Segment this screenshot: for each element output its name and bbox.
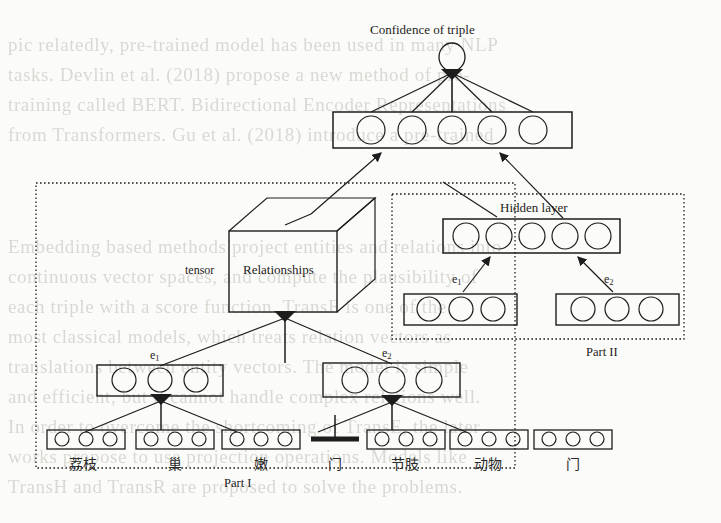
part-ii-caption: Part II — [586, 345, 618, 360]
unit-circle — [184, 368, 208, 392]
unit-circle — [552, 223, 578, 249]
unit-circle — [486, 223, 512, 249]
token-label: 嫩 — [254, 453, 268, 473]
unit-circle — [379, 367, 405, 393]
unit-circle — [458, 432, 472, 446]
e2-input-line — [392, 402, 466, 432]
e2-input-line — [318, 402, 392, 432]
hidden-layer-leader-line — [443, 182, 497, 217]
part-i-e1-label: e1 — [150, 348, 160, 363]
unit-circle — [506, 432, 520, 446]
confidence-output-layer — [333, 112, 572, 148]
weight-line — [452, 73, 492, 112]
unit-circle — [605, 297, 629, 321]
model-architecture-diagram — [0, 0, 721, 523]
part-ii-e1-arrow — [463, 257, 490, 292]
e2-subscript: 2 — [609, 277, 613, 287]
relationships-cube-label: Relationships — [243, 262, 314, 278]
tensor-cube-side-face — [337, 198, 375, 312]
unit-circle — [55, 432, 69, 446]
unit-circle — [590, 432, 604, 446]
unit-circle — [375, 432, 389, 446]
part-i-e2-label: e2 — [382, 346, 392, 361]
unit-circle — [103, 432, 117, 446]
unit-circle — [482, 432, 496, 446]
unit-circle — [481, 297, 505, 321]
unit-circle — [278, 432, 292, 446]
unit-circle — [438, 116, 466, 144]
token-label: 节肢 — [391, 453, 419, 473]
unit-circle — [519, 223, 545, 249]
weight-line — [371, 73, 452, 112]
unit-circle — [357, 116, 385, 144]
part-ii-e2-vector — [556, 294, 679, 325]
unit-circle — [449, 297, 473, 321]
unit-circle — [566, 432, 580, 446]
part-ii-e2-label: e2 — [604, 272, 614, 287]
tensor-cube-top-face — [229, 198, 375, 231]
unit-circle — [342, 367, 368, 393]
cube-input-line — [160, 318, 285, 366]
unit-circle — [519, 116, 547, 144]
e1-input-line — [85, 401, 161, 432]
part-i-e1-vector — [97, 365, 223, 396]
unit-circle — [398, 116, 426, 144]
unit-circle — [423, 432, 437, 446]
weight-line — [412, 73, 452, 112]
confidence-score-node — [439, 43, 465, 71]
unit-circle — [639, 297, 663, 321]
token-label: 门 — [566, 453, 580, 473]
unit-circle — [453, 223, 479, 249]
unit-circle — [192, 432, 206, 446]
unit-circle — [79, 432, 93, 446]
unit-circle — [254, 432, 268, 446]
unit-circle — [112, 368, 136, 392]
confidence-of-triple-label: Confidence of triple — [370, 22, 475, 38]
unit-circle — [585, 223, 611, 249]
unit-circle — [542, 432, 556, 446]
part-i-caption: Part I — [224, 476, 251, 491]
unit-circle — [168, 432, 182, 446]
e2-subscript: 2 — [387, 351, 391, 361]
e1-subscript: 1 — [155, 353, 159, 363]
token-label: 巢 — [168, 453, 182, 473]
weight-line — [452, 73, 533, 112]
part-i-e2-vector — [323, 363, 460, 397]
tensor-label: tensor — [185, 263, 214, 278]
unit-circle — [416, 367, 442, 393]
masked-token-label: 门 — [328, 453, 342, 473]
cube-to-output-connector — [285, 214, 311, 225]
unit-circle — [399, 432, 413, 446]
unit-circle — [144, 432, 158, 446]
e1-subscript: 1 — [457, 277, 461, 287]
token-label: 动物 — [474, 453, 502, 473]
part-ii-e1-label: e1 — [452, 272, 462, 287]
unit-circle — [230, 432, 244, 446]
unit-circle — [571, 297, 595, 321]
cube-input-line — [285, 318, 392, 364]
unit-circle — [478, 116, 506, 144]
e1-input-line — [161, 401, 237, 432]
token-label: 荔枝 — [69, 453, 97, 473]
unit-circle — [417, 297, 441, 321]
hidden-layer-label: Hidden layer — [500, 200, 568, 216]
unit-circle — [148, 368, 172, 392]
